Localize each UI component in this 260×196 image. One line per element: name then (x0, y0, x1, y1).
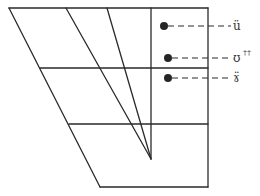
vowel-symbol: ü (233, 19, 241, 33)
left-edge (9, 8, 100, 187)
vowel-marker-1: ü (160, 19, 241, 33)
vowel-quadrilateral (9, 8, 208, 187)
vowel-symbol: ʊ (233, 51, 240, 65)
vowel-symbol: ɤ̈ (233, 71, 240, 85)
vowel-dot-icon (164, 74, 172, 82)
vowel-marker-3: ɤ̈ (164, 71, 240, 85)
vowel-chart: ü ʊ †† ɤ̈ (0, 0, 260, 196)
vowel-dot-icon (164, 54, 172, 62)
vowel-dot-icon (160, 22, 168, 30)
diagonal-line-1 (66, 8, 151, 159)
vowel-superscript: †† (243, 48, 251, 57)
diagonal-line-2 (107, 8, 151, 159)
